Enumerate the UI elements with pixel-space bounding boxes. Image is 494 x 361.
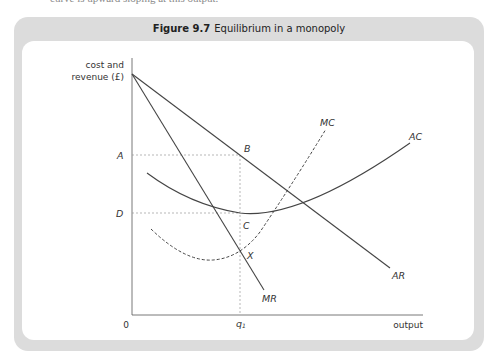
y-axis-label-line1: cost and (86, 60, 124, 70)
label-point-c: C (243, 220, 250, 231)
label-cost-d: D (116, 208, 123, 219)
x-axis-label: output (393, 320, 423, 330)
label-ar: AR (391, 270, 405, 281)
label-q1: q1 (236, 318, 246, 329)
curve-mr (132, 74, 264, 290)
origin-label: 0 (123, 320, 129, 330)
label-ac: AC (408, 131, 422, 142)
monopoly-diagram: cost and revenue (£) output 0 AR MR AC M… (0, 0, 494, 361)
label-mc: MC (320, 117, 335, 128)
curve-ac (147, 143, 410, 214)
label-price-a: A (116, 150, 124, 161)
label-point-x: X (246, 250, 254, 261)
label-mr: MR (262, 293, 277, 304)
label-point-b: B (244, 143, 251, 154)
y-axis-label-line2: revenue (£) (72, 72, 124, 82)
curve-ar (132, 74, 390, 268)
